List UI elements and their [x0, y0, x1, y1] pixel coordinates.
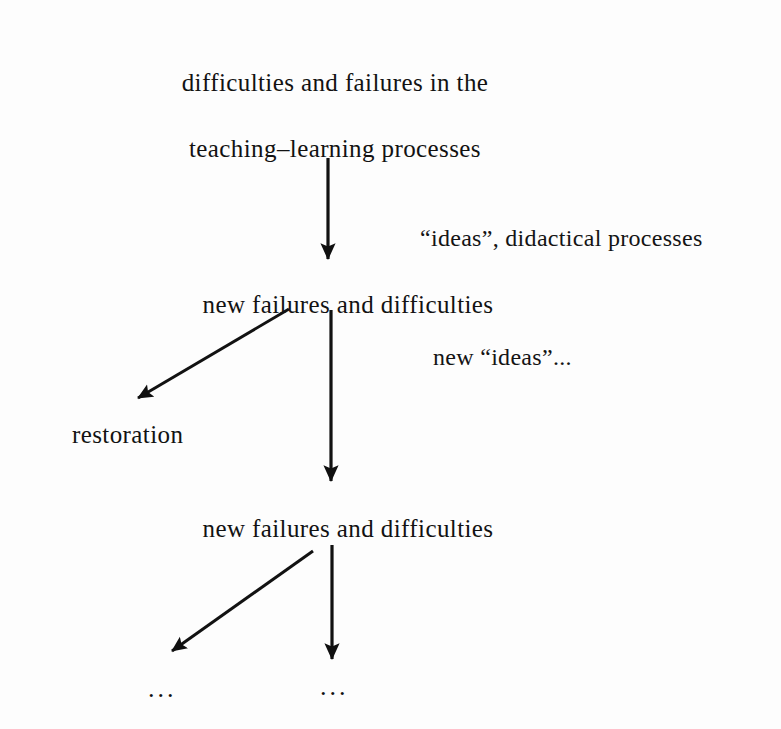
node-second-stage: new failures and difficulties [203, 292, 494, 317]
diagram-canvas: difficulties and failures in the teachin… [0, 0, 781, 729]
edge-label-ideas-didactical: “ideas”, didactical processes [420, 226, 703, 250]
edge-label-new-ideas: new “ideas”... [433, 345, 572, 369]
arrow-layer [0, 0, 781, 729]
node-restoration: restoration [72, 422, 183, 447]
arrow-second-to-restoration [138, 309, 289, 398]
ellipsis-left: ... [148, 676, 177, 702]
arrows-group [138, 158, 332, 659]
arrow-third-to-ellipsis-left [172, 551, 313, 651]
node-root-line-1: difficulties and failures in the [182, 70, 489, 95]
node-root-line-2: teaching–learning processes [189, 136, 481, 161]
ellipsis-right: ... [320, 674, 349, 700]
node-third-stage: new failures and difficulties [203, 516, 494, 541]
